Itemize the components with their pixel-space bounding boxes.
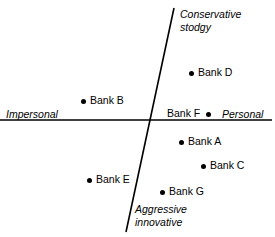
axis-label-aggressive-line1: Aggressive — [135, 203, 187, 215]
data-point-bank-e[interactable] — [87, 178, 92, 183]
data-point-label-bank-d: Bank D — [198, 67, 232, 78]
data-point-label-bank-e: Bank E — [96, 174, 130, 185]
perceptual-map-chart: Impersonal Personal Conservative stodgy … — [0, 0, 275, 237]
axis-label-conservative-line2: stodgy — [180, 21, 211, 33]
data-point-bank-b[interactable] — [81, 99, 86, 104]
data-point-label-bank-a: Bank A — [188, 136, 221, 147]
data-point-label-bank-f: Bank F — [167, 108, 200, 119]
data-point-label-bank-g: Bank G — [169, 186, 204, 197]
axis-label-impersonal: Impersonal — [6, 108, 58, 120]
data-point-bank-c[interactable] — [201, 164, 206, 169]
data-point-label-bank-b: Bank B — [90, 95, 124, 106]
axis-label-aggressive-line2: innovative — [135, 216, 182, 228]
axis-label-personal: Personal — [222, 108, 263, 120]
axis-label-conservative-line1: Conservative — [180, 8, 241, 20]
data-point-bank-d[interactable] — [189, 71, 194, 76]
data-point-bank-a[interactable] — [179, 140, 184, 145]
data-point-bank-g[interactable] — [160, 190, 165, 195]
data-point-label-bank-c: Bank C — [210, 160, 244, 171]
data-point-bank-f[interactable] — [206, 112, 211, 117]
